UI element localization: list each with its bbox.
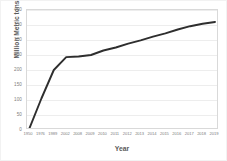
x-axis-tick-labels: 1950197619892002200820092010201120122013… [26,131,218,140]
y-tick-label: 150 [14,82,22,87]
x-tick-label: 2018 [197,131,206,136]
y-tick-label: 100 [14,97,22,102]
x-axis-title: Year [26,145,218,152]
y-axis-tick-labels: 050100150200250300350400 [0,9,24,129]
x-tick-label: 2010 [98,131,107,136]
x-tick-label: 2002 [61,131,70,136]
y-tick-label: 0 [19,127,22,132]
x-tick-label: 2013 [135,131,144,136]
chart-container: Million Metric tons 05010015020025030035… [0,0,227,161]
x-tick-label: 2015 [160,131,169,136]
x-tick-label: 2014 [148,131,157,136]
x-tick-label: 1976 [36,131,45,136]
x-tick-label: 2008 [73,131,82,136]
x-tick-label: 2017 [185,131,194,136]
y-tick-label: 200 [14,67,22,72]
x-tick-label: 2011 [110,131,119,136]
x-tick-label: 2019 [210,131,219,136]
y-tick-label: 250 [14,52,22,57]
y-tick-label: 350 [14,22,22,27]
x-tick-label: 2012 [123,131,132,136]
x-tick-label: 2016 [172,131,181,136]
y-tick-label: 50 [17,112,22,117]
y-tick-label: 300 [14,37,22,42]
x-tick-label: 2009 [86,131,95,136]
x-tick-label: 1950 [24,131,33,136]
plot-area [26,9,218,129]
y-tick-label: 400 [14,7,22,12]
line-series-global-plastic-production [27,10,218,129]
x-tick-label: 1989 [48,131,57,136]
